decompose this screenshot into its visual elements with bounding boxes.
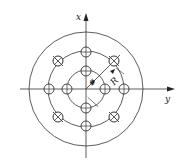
hole-left-outer bbox=[44, 84, 54, 94]
radius-arrow-icon bbox=[110, 69, 115, 74]
hole-bottom-outer bbox=[81, 121, 91, 131]
hole-left-inner bbox=[62, 84, 72, 94]
hole-top-outer bbox=[81, 47, 91, 57]
hole-diagonal-bottom-right bbox=[109, 112, 119, 122]
hole-right-outer bbox=[119, 84, 129, 94]
hole-top-inner bbox=[81, 66, 91, 76]
y-axis-arrow-icon bbox=[167, 87, 175, 92]
hole-diagonal-bottom-left bbox=[53, 112, 63, 122]
hole-diagonal-top-left bbox=[53, 56, 63, 66]
hole-bottom-inner bbox=[81, 103, 91, 113]
radius-label: R bbox=[108, 75, 121, 88]
hole-diagonal-top-right bbox=[109, 56, 119, 66]
diameter-label: ø bbox=[86, 76, 98, 88]
hole-right-inner bbox=[100, 84, 110, 94]
x-axis-arrow-icon bbox=[84, 13, 89, 21]
diagram-canvas: x y ø R bbox=[0, 0, 185, 168]
y-axis-label: y bbox=[164, 94, 171, 104]
dimension-tick-outer bbox=[116, 68, 124, 74]
x-axis-label: x bbox=[76, 12, 81, 22]
bolt-circle-diagram: x y ø R bbox=[0, 0, 185, 168]
